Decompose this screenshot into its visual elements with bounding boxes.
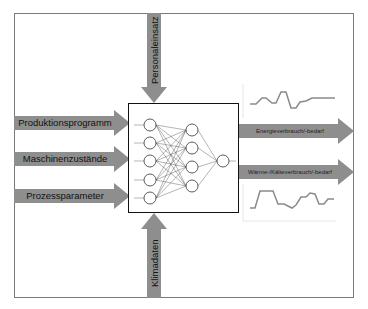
heat-cold-profile-chart [240, 180, 340, 225]
label-waerme-kaelteverbrauch: Wärme-/Kälteverbrauch/-bedarf [238, 165, 342, 179]
label-klimadaten: Klimadaten [147, 229, 161, 298]
arrow-personaleinsatz: Personaleinsatz [141, 13, 167, 103]
energy-curve [250, 92, 335, 108]
neural-network-icon [128, 103, 239, 213]
arrow-klimadaten: Klimadaten [141, 213, 167, 298]
heat-cold-curve [250, 191, 334, 208]
label-personaleinsatz: Personaleinsatz [147, 13, 161, 87]
label-prozessparameter: Prozessparameter [14, 189, 116, 203]
neural-network-box [128, 103, 239, 213]
arrow-maschinenzustaende: Maschinenzustände [14, 146, 130, 172]
arrow-energieverbrauch: Energieverbrauch/-bedarf [238, 118, 354, 144]
energy-profile-chart [240, 80, 340, 120]
label-produktionsprogramm: Produktionsprogramm [14, 116, 116, 130]
arrow-produktionsprogramm: Produktionsprogramm [14, 110, 130, 136]
label-maschinenzustaende: Maschinenzustände [14, 152, 116, 166]
arrow-prozessparameter: Prozessparameter [14, 183, 130, 209]
label-energieverbrauch: Energieverbrauch/-bedarf [238, 124, 342, 138]
